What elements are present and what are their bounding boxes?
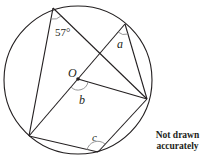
angle-a-arc: [118, 32, 128, 35]
angle-b-label: b: [79, 93, 85, 107]
angle-57-label: 57°: [55, 26, 70, 38]
not-drawn-accurately-note: Not drawn accurately: [150, 130, 205, 152]
angle-a-label: a: [117, 37, 123, 51]
note-line1: Not drawn: [150, 130, 205, 141]
chord-left-bottom: [29, 136, 98, 152]
chord-bottom-right: [98, 99, 147, 152]
note-line2: accurately: [150, 141, 205, 152]
angle-57-arc: [51, 16, 61, 19]
chord-topleft-left: [29, 8, 53, 136]
angle-c-label: c: [92, 131, 97, 143]
center-point: [76, 77, 80, 81]
center-label: O: [68, 66, 77, 80]
